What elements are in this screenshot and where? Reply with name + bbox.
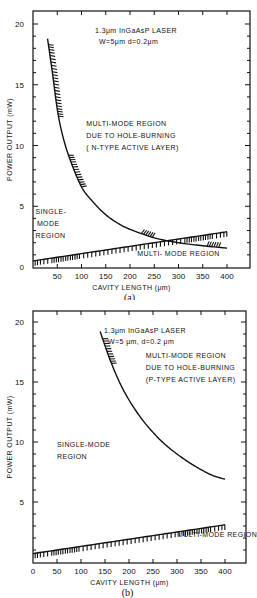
chart-subtitle: W=5μm d=0.2μm xyxy=(99,38,158,46)
figure-a: 5010015020025030035040005101520CAVITY LE… xyxy=(0,0,257,300)
x-tick-label: 350 xyxy=(194,567,208,576)
chart-title: 1.3μm InGaAsP LASER xyxy=(95,27,177,35)
region-annotation: REGION xyxy=(57,453,87,460)
x-tick-label: 250 xyxy=(146,567,160,576)
plot-frame xyxy=(33,311,246,563)
x-tick-label: 100 xyxy=(74,567,88,576)
x-tick-label: 0 xyxy=(31,567,36,576)
y-axis-label: POWER OUTPUT (mW) xyxy=(6,98,14,181)
x-tick-label: 200 xyxy=(122,567,136,576)
x-tick-label: 50 xyxy=(53,567,62,576)
region-annotation: MULTI-MODE REGION xyxy=(177,531,257,538)
y-tick-label: 0 xyxy=(20,263,25,272)
x-tick-label: 100 xyxy=(75,272,89,281)
region-annotation: (P-TYPE ACTIVE LAYER) xyxy=(146,376,236,384)
x-tick-label: 300 xyxy=(172,272,186,281)
x-tick-label: 50 xyxy=(53,272,62,281)
x-tick-label: 400 xyxy=(220,272,234,281)
y-tick-label: 15 xyxy=(15,378,24,387)
region-annotation: SINGLE- xyxy=(35,208,66,215)
y-tick-label: 10 xyxy=(15,142,24,151)
chart-b-plot: 0501001502002503003504005101520CAVITY LE… xyxy=(0,300,257,598)
y-tick-label: 20 xyxy=(15,20,24,29)
figure-b: 0501001502002503003504005101520CAVITY LE… xyxy=(0,300,257,598)
region-annotation: DUE TO HOLE-BURNING xyxy=(86,132,175,139)
x-tick-label: 350 xyxy=(196,272,210,281)
plot-frame xyxy=(33,11,250,268)
x-tick-label: 150 xyxy=(98,567,112,576)
chart-subtitle: W=5 μm, d=0.2 μm xyxy=(108,338,174,346)
x-axis-label: CAVITY LENGTH (μm) xyxy=(92,284,171,292)
x-tick-label: 250 xyxy=(148,272,162,281)
x-tick-label: 150 xyxy=(99,272,113,281)
chart-a-plot: 5010015020025030035040005101520CAVITY LE… xyxy=(0,0,257,300)
region-annotation: MODE xyxy=(37,220,60,227)
y-tick-label: 20 xyxy=(15,318,24,327)
x-tick-label: 300 xyxy=(170,567,184,576)
figure-caption: (b) xyxy=(122,587,134,598)
region-annotation: SINGLE-MODE xyxy=(57,441,110,448)
region-annotation: ( N-TYPE ACTIVE LAYER) xyxy=(86,144,178,152)
chart-title: 1.3μm InGaAsP LASER xyxy=(104,327,186,335)
y-tick-label: 15 xyxy=(15,81,24,90)
y-tick-label: 5 xyxy=(20,498,25,507)
region-annotation: MULTI- MODE REGION xyxy=(137,250,220,257)
x-tick-label: 200 xyxy=(123,272,137,281)
x-axis-label: CAVITY LENGTH (μm) xyxy=(90,579,169,587)
region-annotation: REGION xyxy=(35,232,65,239)
x-tick-label: 400 xyxy=(218,567,232,576)
region-annotation: MULTI-MODE REGION xyxy=(86,120,166,127)
region-annotation: MULTI-MODE REGION xyxy=(146,352,226,359)
y-tick-label: 5 xyxy=(20,202,25,211)
figure-caption: (a) xyxy=(124,292,135,300)
series-hole-burning-threshold xyxy=(48,39,227,249)
y-axis-label: POWER OUTPUT (mW) xyxy=(6,396,14,479)
region-annotation: DUE TO HOLE-BURNING xyxy=(146,364,235,371)
y-tick-label: 10 xyxy=(15,438,24,447)
